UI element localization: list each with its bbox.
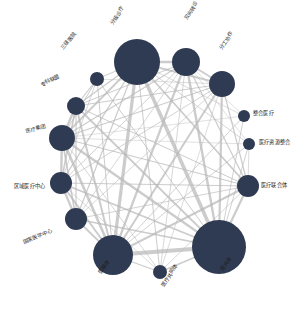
network-graph-figure: 分级诊疗双向转诊分工协作整合医疗医疗资源整合医疗联合体医共体医疗共同体医联体国家… (0, 0, 307, 321)
graph-node[interactable] (93, 235, 133, 275)
graph-node[interactable] (65, 208, 87, 230)
node-layer (49, 39, 259, 279)
graph-node[interactable] (50, 172, 72, 194)
graph-node[interactable] (153, 265, 167, 279)
graph-node[interactable] (238, 110, 250, 122)
graph-node[interactable] (67, 97, 85, 115)
graph-node[interactable] (209, 71, 235, 97)
graph-node[interactable] (237, 175, 259, 197)
graph-node[interactable] (90, 72, 104, 86)
graph-node[interactable] (172, 48, 200, 76)
graph-node[interactable] (192, 220, 246, 274)
graph-node[interactable] (114, 39, 160, 85)
graph-canvas (0, 0, 307, 321)
graph-node[interactable] (243, 138, 255, 150)
graph-node[interactable] (49, 125, 75, 151)
graph-edge (97, 79, 113, 255)
